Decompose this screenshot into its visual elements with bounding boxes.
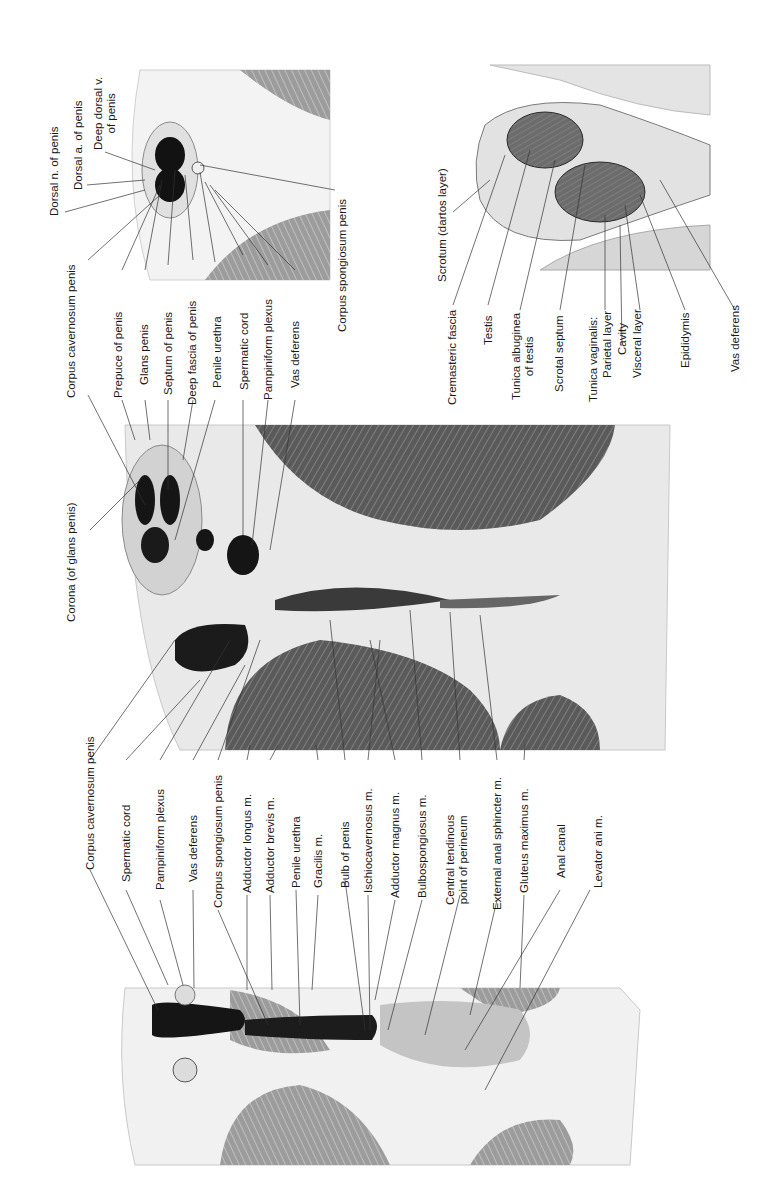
- label-corona-glans: Corona (of glans penis): [65, 502, 78, 622]
- label-bulb-of-penis: Bulb of penis: [339, 822, 352, 889]
- label-pampiniform-plexus-a: Pampiniform plexus: [154, 789, 167, 890]
- label-vas-deferens-d: Vas deferens: [729, 305, 742, 372]
- label-anal-canal: Anal canal: [555, 824, 568, 878]
- label-deep-dorsal-vein: Deep dorsal v. of penis: [92, 77, 118, 150]
- label-adductor-longus: Adductor longus m.: [241, 794, 254, 893]
- label-spermatic-cord-b: Spermatic cord: [238, 313, 251, 390]
- label-spermatic-cord-a: Spermatic cord: [120, 805, 133, 882]
- label-corpus-cavernosum-penis-a: Corpus cavernosum penis: [84, 736, 97, 870]
- label-penile-urethra-b: Penile urethra: [211, 316, 224, 388]
- label-prepuce: Prepuce of penis: [112, 312, 125, 398]
- label-glans-penis: Glans penis: [138, 324, 151, 385]
- label-dorsal-nerve: Dorsal n. of penis: [48, 127, 61, 217]
- label-adductor-brevis: Adductor brevis m.: [264, 797, 277, 893]
- label-corpus-cavernosum-penis-b: Corpus cavernosum penis: [65, 264, 78, 398]
- panel-root-section: [122, 985, 640, 1165]
- label-ischiocavernosus: Ischiocavernosus m.: [362, 788, 375, 893]
- label-vas-deferens-b: Vas deferens: [289, 321, 302, 388]
- label-parietal-layer: Parietal layer: [601, 311, 614, 378]
- label-adductor-magnus: Adductor magnus m.: [389, 792, 402, 898]
- panel-glans-section: [122, 425, 670, 750]
- tissue-illustration: [0, 0, 763, 1190]
- label-dorsal-artery: Dorsal a. of penis: [72, 101, 85, 191]
- label-bulbospongiosus: Bulbospongiosus m.: [416, 794, 429, 898]
- label-testis: Testis: [482, 316, 495, 345]
- label-central-tendinous-point: Central tendinous point of perineum: [444, 815, 470, 905]
- label-external-anal-sphincter: External anal sphincter m.: [491, 777, 504, 910]
- label-tunica-vaginalis: Tunica vaginalis:: [587, 317, 600, 402]
- label-epididymis: Epididymis: [679, 312, 692, 368]
- label-penile-urethra-a: Penile urethra: [290, 816, 303, 888]
- panel-shaft-section: [132, 70, 330, 280]
- label-visceral-layer: Visceral layer: [631, 309, 644, 378]
- label-gracilis: Gracilis m.: [312, 834, 325, 888]
- label-corpus-spongiosum-penis-a: Corpus spongiosum penis: [212, 775, 225, 908]
- label-deep-fascia-of-penis: Deep fascia of penis: [186, 301, 199, 405]
- label-corpus-spongiosum-penis-c: Corpus spongiosum penis: [336, 199, 349, 332]
- label-tunica-albuginea: Tunica albuginea of testis: [510, 313, 536, 400]
- anatomy-figure: Corpus cavernosum penis Spermatic cord P…: [0, 0, 763, 1190]
- label-cremasteric-fascia: Cremasteric fascia: [446, 310, 459, 405]
- label-scrotum-dartos: Scrotum (dartos layer): [436, 168, 449, 282]
- label-gluteus-maximus: Gluteus maximus m.: [518, 788, 531, 893]
- label-vas-deferens-a: Vas deferens: [187, 815, 200, 882]
- label-septum-of-penis: Septum of penis: [162, 312, 175, 395]
- label-cavity: Cavity: [616, 323, 629, 355]
- label-scrotal-septum: Scrotal septum: [553, 315, 566, 392]
- panel-scrotum-section: [476, 65, 710, 270]
- label-pampiniform-plexus-b: Pampiniform plexus: [262, 299, 275, 400]
- label-levator-ani: Levator ani m.: [592, 815, 605, 888]
